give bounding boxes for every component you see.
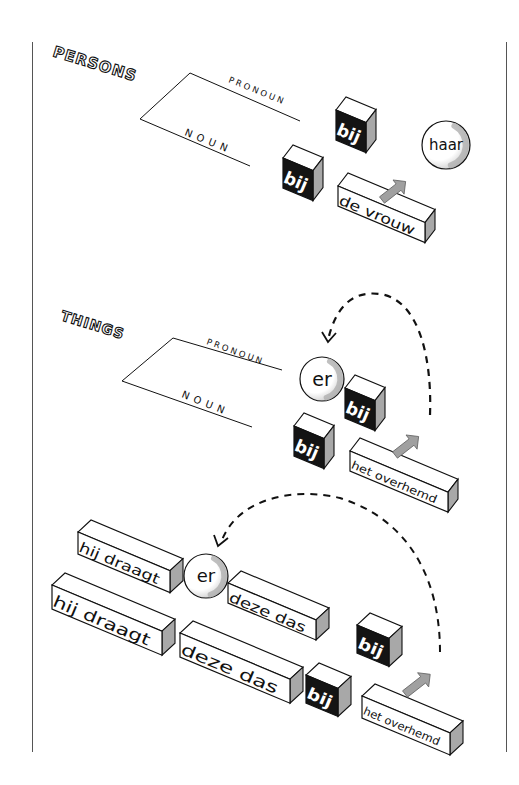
- word-block-t-bij-noun: bij: [292, 413, 334, 469]
- pronoun-sphere-s-er: er: [184, 554, 228, 598]
- word-block-s-hij-draagt-top: hij draagt: [77, 520, 183, 593]
- things-noun-label: NOUN: [180, 389, 231, 418]
- word-block-p-de-vrouw: de vrouw: [337, 173, 435, 243]
- pronoun-sphere-p-haar: haar: [422, 121, 470, 169]
- word-blocks: bijbijde vrouwbijbijhet overhemdhij draa…: [50, 97, 463, 755]
- word-block-s-deze-das-bottom: deze das: [178, 621, 303, 703]
- word-block-s-bij-pronoun: bij: [355, 613, 402, 666]
- persons-pronoun-noun-fork: [140, 73, 300, 166]
- word-block-s-het-overhemd: het overhemd: [361, 684, 463, 755]
- word-block-p-bij-pronoun: bij: [334, 97, 376, 153]
- things-title: THINGS: [59, 308, 127, 343]
- pronoun-sphere-t-er: er: [300, 357, 344, 401]
- word-block-p-bij-noun: bij: [281, 145, 323, 201]
- illustration-stage: PERSONS PRONOUN NOUN THINGS PRONOUN NOUN…: [0, 0, 519, 785]
- sphere-label: er: [312, 368, 332, 390]
- sentence-dashed-move-arrow: [222, 494, 440, 652]
- things-pronoun-noun-fork: [122, 338, 282, 427]
- diagram-canvas: PERSONS PRONOUN NOUN THINGS PRONOUN NOUN…: [0, 0, 519, 785]
- sentence-dashed-arrowhead-icon: [214, 535, 228, 546]
- word-block-t-bij-pronoun: bij: [343, 375, 385, 431]
- sphere-label: er: [197, 565, 216, 586]
- sphere-label: haar: [429, 136, 464, 154]
- persons-title: PERSONS: [51, 43, 139, 86]
- things-pronoun-label: PRONOUN: [205, 336, 266, 366]
- persons-section: PERSONS PRONOUN NOUN: [51, 43, 300, 166]
- word-block-s-bij-noun: bij: [304, 663, 351, 716]
- word-block-s-deze-das-top: deze das: [227, 571, 329, 640]
